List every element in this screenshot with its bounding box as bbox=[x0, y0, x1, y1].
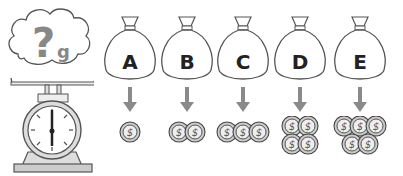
money-bag-e: E bbox=[332, 14, 388, 84]
svg-text:$: $ bbox=[305, 121, 311, 132]
coin-icon: $ $ $ $ $ bbox=[332, 116, 388, 156]
money-bag-b: B bbox=[159, 14, 215, 84]
money-bag-c: C bbox=[215, 14, 271, 84]
svg-text:$: $ bbox=[176, 127, 182, 138]
svg-text:$: $ bbox=[305, 139, 311, 150]
question-mark: ? bbox=[32, 20, 55, 66]
svg-text:$: $ bbox=[365, 139, 371, 150]
coin-group-e: $ $ $ $ $ bbox=[332, 116, 388, 160]
bag-label: B bbox=[159, 50, 215, 74]
coin-group-c: $ $ $ bbox=[215, 120, 271, 148]
coin-group-d: $ $ $ $ bbox=[280, 116, 320, 160]
coin-group-a: $ bbox=[118, 120, 142, 148]
money-bag-d: D bbox=[272, 14, 328, 84]
down-arrow-icon bbox=[353, 87, 367, 113]
down-arrow-icon bbox=[236, 87, 250, 113]
down-arrow-icon bbox=[293, 87, 307, 113]
svg-text:$: $ bbox=[240, 127, 246, 138]
svg-text:$: $ bbox=[289, 139, 295, 150]
money-bag-a: A bbox=[102, 14, 158, 84]
svg-text:$: $ bbox=[289, 121, 295, 132]
coin-icon: $ $ bbox=[167, 120, 207, 144]
down-arrow-icon bbox=[180, 87, 194, 113]
coin-icon: $ $ $ $ bbox=[280, 116, 320, 156]
bag-label: E bbox=[332, 50, 388, 74]
svg-text:$: $ bbox=[349, 139, 355, 150]
svg-text:$: $ bbox=[256, 127, 262, 138]
svg-text:$: $ bbox=[357, 121, 363, 132]
svg-text:$: $ bbox=[127, 127, 133, 138]
coin-icon: $ $ $ bbox=[215, 120, 271, 144]
coin-icon: $ bbox=[118, 120, 142, 144]
bag-label: C bbox=[215, 50, 271, 74]
bag-label: A bbox=[102, 50, 158, 74]
svg-text:$: $ bbox=[373, 121, 379, 132]
svg-text:$: $ bbox=[192, 127, 198, 138]
weighing-scale bbox=[8, 74, 94, 174]
svg-text:$: $ bbox=[224, 127, 230, 138]
coin-group-b: $ $ bbox=[167, 120, 207, 148]
down-arrow-icon bbox=[123, 87, 137, 113]
svg-text:$: $ bbox=[341, 121, 347, 132]
thought-cloud: ? g bbox=[4, 4, 94, 70]
bag-label: D bbox=[272, 50, 328, 74]
scale-icon bbox=[8, 74, 94, 174]
gram-unit: g bbox=[57, 41, 70, 62]
